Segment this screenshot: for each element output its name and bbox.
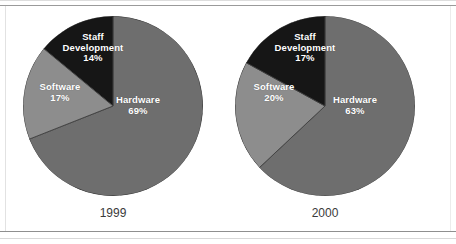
pie-1999-svg [23, 16, 203, 196]
frame-rule-right [450, 6, 451, 232]
frame-rule-top-faint [0, 0, 456, 1]
frame-rule-left [5, 6, 6, 232]
pie-chart-2000: Staff Development 17% Software 20% Hardw… [235, 16, 415, 196]
frame-rule-top [0, 5, 456, 6]
figure-canvas: Staff Development 14% Software 17% Hardw… [0, 0, 456, 244]
pie-chart-1999: Staff Development 14% Software 17% Hardw… [23, 16, 203, 196]
year-caption-2000: 2000 [275, 206, 375, 220]
frame-rule-bottom [0, 231, 456, 232]
frame-rule-bottom-secondary [0, 238, 456, 239]
year-caption-1999: 1999 [63, 206, 163, 220]
pie-2000-svg [235, 16, 415, 196]
